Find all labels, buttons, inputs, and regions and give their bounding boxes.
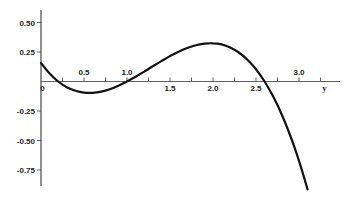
figure: 0.51.01.52.02.53.00y0.500.25-0.25-0.50-0… (0, 0, 347, 198)
function-curve (41, 43, 308, 189)
x-tick-label: 2.0 (207, 84, 219, 93)
x-origin-label: 0 (40, 84, 45, 93)
x-tick-label: 1.5 (164, 84, 176, 93)
cubic-curve-plot: 0.51.01.52.02.53.00y0.500.25-0.25-0.50-0… (0, 0, 347, 198)
y-tick-label: -0.50 (17, 137, 36, 146)
y-tick-label: -0.75 (17, 166, 36, 175)
x-tick-label: 1.0 (121, 68, 133, 77)
y-tick-label: 0.25 (19, 48, 35, 57)
y-tick-label: 0.50 (19, 19, 35, 28)
x-tick-label: 2.5 (250, 84, 262, 93)
x-axis-variable-label: y (322, 83, 327, 93)
x-tick-label: 0.5 (78, 68, 90, 77)
y-tick-label: -0.25 (17, 107, 36, 116)
x-tick-label: 3.0 (293, 68, 305, 77)
